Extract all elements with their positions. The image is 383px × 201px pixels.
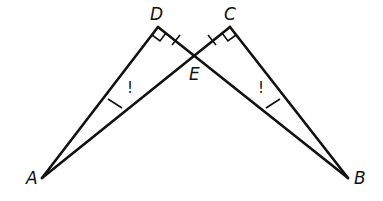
label-B: B [354,168,366,188]
tick-mark-BC [266,99,280,108]
right-angle-mark-C [222,33,236,41]
segment-CA [42,27,230,178]
angle-mark-A: ! [127,79,133,97]
tick-mark-AD [108,99,122,108]
angle-mark-B: ! [258,79,264,97]
label-D: D [150,4,163,24]
segment-AD [42,27,158,178]
label-C: C [224,4,236,24]
geometry-diagram: ! ! D C E A B [0,0,383,201]
label-E: E [189,64,200,84]
label-A: A [25,168,38,188]
segment-DB [158,27,348,178]
segment-BC [230,27,348,178]
